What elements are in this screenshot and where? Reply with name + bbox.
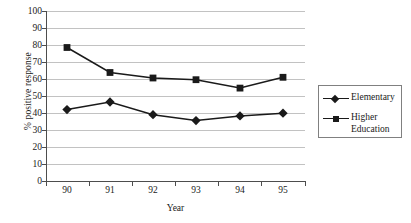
line-chart: % positive response 100 90 80 70 60 50 4… xyxy=(0,0,411,223)
x-tick-label: 94 xyxy=(225,185,255,195)
x-tick-label: 90 xyxy=(52,185,82,195)
data-point-marker xyxy=(105,97,114,106)
chart-legend: Elementary Higher Education xyxy=(318,85,402,138)
data-point-marker xyxy=(278,109,287,118)
legend-item-higher-education: Higher Education xyxy=(323,112,390,135)
x-axis-tick-labels: 90 91 92 93 94 95 xyxy=(46,185,305,199)
data-point-marker xyxy=(237,85,244,92)
data-point-marker xyxy=(148,110,157,119)
x-tick-label: 95 xyxy=(268,185,298,195)
data-point-marker xyxy=(150,75,157,82)
gridlines xyxy=(46,11,305,164)
diamond-marker-icon xyxy=(323,93,349,104)
x-tick-label: 92 xyxy=(138,185,168,195)
data-point-marker xyxy=(191,116,200,125)
data-point-marker xyxy=(280,74,287,81)
legend-label: Elementary xyxy=(349,92,395,104)
x-tick-label: 93 xyxy=(181,185,211,195)
data-point-marker xyxy=(64,44,71,51)
series-higher-education xyxy=(64,44,287,91)
x-tick-label: 91 xyxy=(95,185,125,195)
legend-item-elementary: Elementary xyxy=(323,92,395,104)
data-point-marker xyxy=(193,76,200,83)
legend-label: Higher Education xyxy=(349,112,390,135)
square-marker-icon xyxy=(323,113,349,124)
x-axis-title: Year xyxy=(46,203,305,213)
series-elementary xyxy=(62,97,287,125)
data-point-marker xyxy=(107,69,114,76)
series-line-higher-education xyxy=(67,48,283,89)
series-line-elementary xyxy=(67,102,283,121)
y-axis-ticks xyxy=(42,11,46,181)
